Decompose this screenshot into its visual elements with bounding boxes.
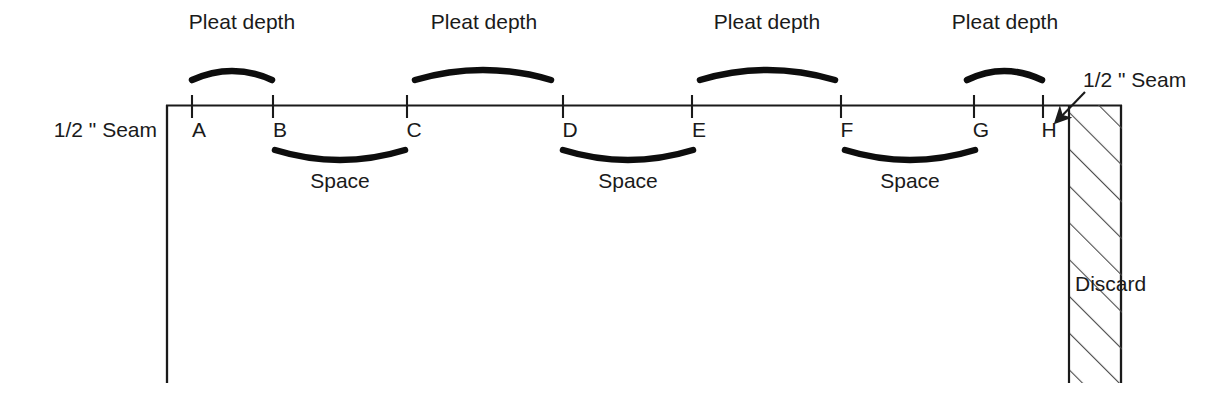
diagram-canvas: A B C D E F G H Pleat depth Pleat depth … bbox=[0, 0, 1231, 399]
space-label-2: Space bbox=[598, 169, 658, 192]
pleat-depth-labels: Pleat depth Pleat depth Pleat depth Plea… bbox=[189, 10, 1058, 33]
space-bracket-3 bbox=[845, 150, 975, 160]
pleat-depth-label-1: Pleat depth bbox=[189, 10, 295, 33]
space-label-3: Space bbox=[880, 169, 940, 192]
point-label-D: D bbox=[562, 118, 577, 141]
space-bracket-2 bbox=[563, 150, 693, 160]
point-labels: A B C D E F G H bbox=[192, 118, 1057, 141]
point-label-B: B bbox=[273, 118, 287, 141]
point-label-E: E bbox=[692, 118, 706, 141]
pleat-bracket-3 bbox=[700, 70, 835, 80]
pleat-depth-label-4: Pleat depth bbox=[952, 10, 1058, 33]
pleat-depth-brackets bbox=[192, 70, 1042, 80]
point-label-F: F bbox=[841, 118, 854, 141]
point-label-H: H bbox=[1041, 118, 1056, 141]
pleat-bracket-4 bbox=[967, 71, 1042, 80]
pleat-depth-label-2: Pleat depth bbox=[431, 10, 537, 33]
pleat-diagram: A B C D E F G H Pleat depth Pleat depth … bbox=[0, 0, 1231, 399]
fabric-outline bbox=[166, 105, 1122, 383]
pleat-depth-label-3: Pleat depth bbox=[714, 10, 820, 33]
point-label-G: G bbox=[973, 118, 989, 141]
pleat-bracket-1 bbox=[192, 71, 272, 80]
space-label-1: Space bbox=[310, 169, 370, 192]
discard-label: Discard bbox=[1075, 272, 1146, 295]
seam-label-left: 1/2 " Seam bbox=[54, 118, 157, 141]
point-label-A: A bbox=[192, 118, 206, 141]
discard-region bbox=[1068, 105, 1122, 383]
seam-label-right: 1/2 " Seam bbox=[1083, 68, 1186, 91]
point-label-C: C bbox=[406, 118, 421, 141]
discard-hatch-fill bbox=[1068, 105, 1122, 383]
pleat-bracket-2 bbox=[415, 70, 551, 80]
space-brackets bbox=[275, 150, 975, 160]
space-labels: Space Space Space bbox=[310, 169, 940, 192]
space-bracket-1 bbox=[275, 150, 405, 160]
